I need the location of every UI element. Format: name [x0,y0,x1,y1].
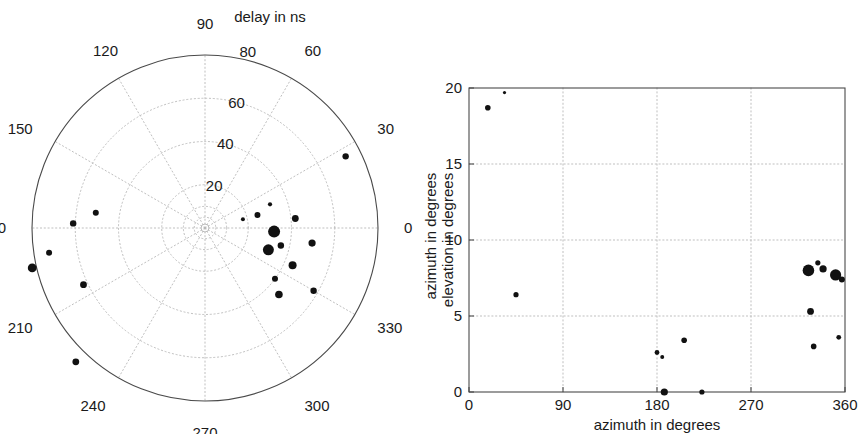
scatter-ytick-label-15: 15 [445,155,462,172]
scatter-data-point [503,91,506,94]
polar-data-point [289,261,297,269]
polar-data-point [308,239,315,246]
polar-radial-tick-80: 80 [239,43,256,60]
scatter-data-point [699,389,704,394]
polar-data-point [93,210,99,216]
polar-angular-tick-90: 90 [197,15,214,32]
scatter-x-axis-title: azimuth in degrees [594,416,721,433]
scatter-data-point [819,265,826,272]
polar-radial-tick-60: 60 [228,94,245,111]
polar-angular-tick-120: 120 [93,42,118,59]
scatter-plot-panel: 09018027036005101520azimuth in degreesel… [430,0,860,434]
scatter-data-point [803,265,815,277]
scatter-ytick-label-5: 5 [454,307,462,324]
polar-angular-tick-60: 60 [305,42,322,59]
scatter-ytick-label-0: 0 [454,383,462,400]
polar-grid-spoke-30 [205,142,355,229]
scatter-data-point [836,335,841,340]
polar-data-point [272,276,278,282]
scatter-data-point [815,260,820,265]
polar-angular-tick-0: 0 [404,219,412,236]
scatter-data-point [839,277,845,283]
polar-plot-panel: 030609012015018021024027030033020406080d… [0,0,430,434]
scatter-data-point [807,308,814,315]
polar-angular-tick-270: 270 [192,424,217,434]
scatter-data-point [681,338,687,344]
polar-data-point [268,202,272,206]
polar-angular-tick-240: 240 [80,397,105,414]
polar-angular-tick-210: 210 [8,319,33,336]
polar-data-point [278,242,284,248]
polar-angular-tick-330: 330 [377,319,402,336]
scatter-data-point [811,344,817,350]
polar-angular-tick-150: 150 [8,120,33,137]
scatter-data-point [655,350,660,355]
polar-data-point [268,226,280,238]
polar-grid-spoke-300 [205,228,292,378]
scatter-secondary-y-axis-title: azimuth in degrees [422,173,439,300]
polar-angular-tick-30: 30 [377,120,394,137]
scatter-ytick-label-20: 20 [445,79,462,96]
polar-data-point [241,217,245,221]
polar-data-point [72,358,79,365]
polar-data-point [275,291,283,299]
scatter-xtick-label-180: 180 [644,396,669,413]
polar-radial-tick-40: 40 [217,135,234,152]
figure-container: 030609012015018021024027030033020406080d… [0,0,860,434]
polar-data-point [263,244,274,255]
scatter-data-point [513,292,518,297]
polar-grid-spoke-210 [55,228,205,315]
polar-grid-spoke-240 [119,228,206,378]
polar-plot-canvas: 030609012015018021024027030033020406080d… [0,0,430,434]
polar-radial-tick-20: 20 [206,177,223,194]
scatter-xtick-label-360: 360 [832,396,857,413]
polar-data-point [292,215,299,222]
scatter-xtick-label-270: 270 [738,396,763,413]
polar-data-point [46,250,52,256]
scatter-data-point [660,355,664,359]
polar-data-point [254,212,260,218]
scatter-data-point [661,388,668,395]
scatter-plot-canvas: 09018027036005101520azimuth in degreesel… [430,0,860,434]
polar-data-point [28,263,37,272]
polar-angular-tick-180: 180 [0,219,6,236]
polar-angular-tick-300: 300 [305,397,330,414]
polar-data-point [310,288,316,294]
scatter-xtick-label-0: 0 [465,396,473,413]
polar-data-point [70,220,76,226]
polar-data-point [342,153,348,159]
scatter-data-point [485,105,491,111]
scatter-xtick-label-90: 90 [555,396,572,413]
polar-radial-axis-title: delay in ns [234,8,306,25]
scatter-y-axis-title: elevation in degrees [439,173,456,307]
polar-data-point [80,281,87,288]
